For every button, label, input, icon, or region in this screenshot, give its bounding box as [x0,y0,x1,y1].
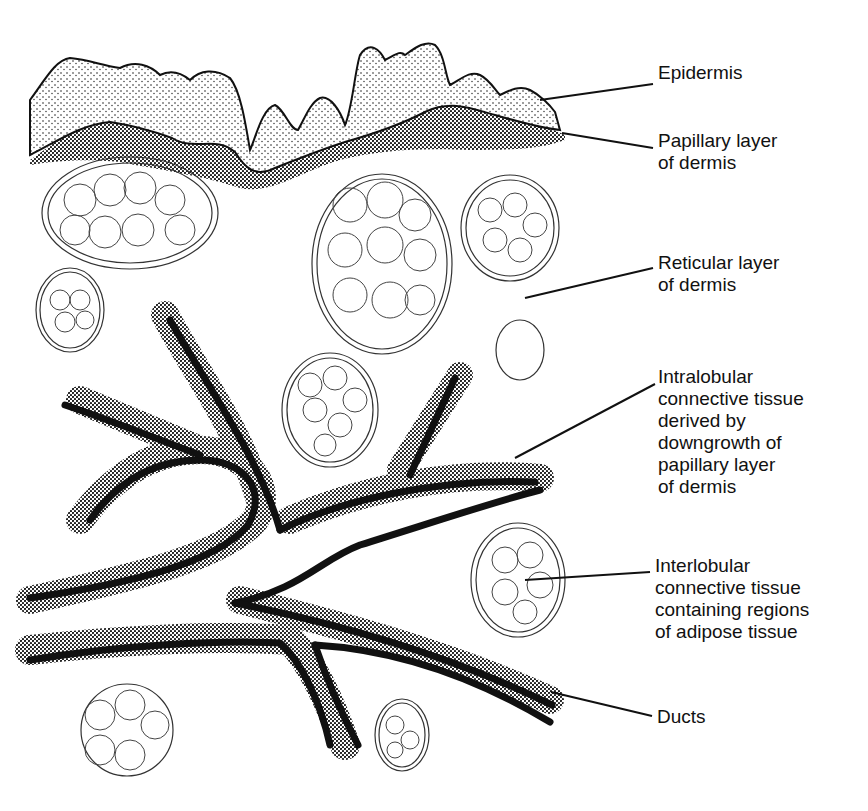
label-interlobular-connective-tissue: Interlobular connective tissue containin… [655,555,809,643]
leader-lines [515,84,655,716]
label-epidermis: Epidermis [658,62,742,84]
label-papillary-layer: Papillary layer of dermis [658,130,777,174]
label-reticular-layer: Reticular layer of dermis [658,252,779,296]
label-intralobular-connective-tissue: Intralobular connective tissue derived b… [658,366,804,498]
label-ducts: Ducts [657,706,706,728]
